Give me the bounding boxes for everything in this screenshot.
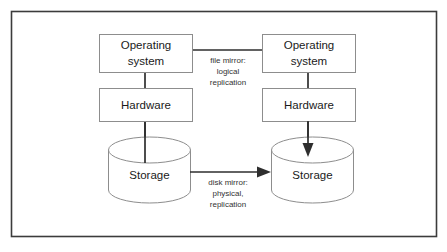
right-os-label-line2: system <box>291 55 327 67</box>
left-cylinder-top-icon <box>109 137 191 163</box>
disk-mirror-line2: physical, <box>212 189 243 198</box>
left-os-label-line2: system <box>128 55 164 67</box>
left-hardware-label: Hardware <box>121 99 171 111</box>
file-mirror-line1: file mirror: <box>210 56 246 65</box>
right-storage-cylinder: Storage <box>272 137 354 203</box>
disk-mirror-arrowhead <box>257 167 271 178</box>
file-mirror-annotation: file mirror: logical replication <box>210 56 246 87</box>
right-os-label-line1: Operating <box>284 39 335 51</box>
file-mirror-line3: replication <box>210 78 246 87</box>
replication-diagram: Operating system Hardware Storage Operat… <box>0 0 447 252</box>
right-cylinder-top-icon <box>272 137 354 163</box>
right-storage-label: Storage <box>292 169 332 181</box>
disk-mirror-annotation: disk mirror: physical, replication <box>208 178 248 209</box>
file-mirror-line2: logical <box>217 67 240 76</box>
disk-mirror-line1: disk mirror: <box>208 178 248 187</box>
left-os-label-line1: Operating <box>121 39 172 51</box>
left-storage-label: Storage <box>129 169 169 181</box>
left-storage-cylinder: Storage <box>109 137 191 203</box>
disk-mirror-line3: replication <box>210 200 246 209</box>
diagram-canvas: Operating system Hardware Storage Operat… <box>0 0 447 252</box>
right-hardware-label: Hardware <box>284 99 334 111</box>
